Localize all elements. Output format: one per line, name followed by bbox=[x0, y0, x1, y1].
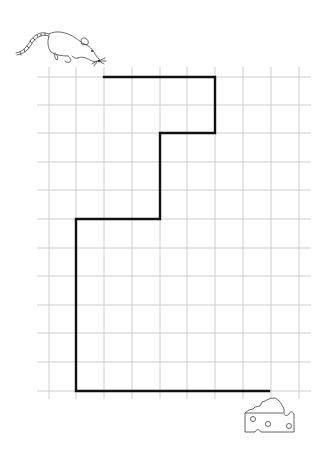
path-line bbox=[76, 77, 269, 391]
grid bbox=[37, 67, 311, 399]
maze-puzzle bbox=[0, 0, 327, 464]
cheese-icon bbox=[245, 398, 294, 432]
mouse-icon bbox=[16, 32, 106, 66]
